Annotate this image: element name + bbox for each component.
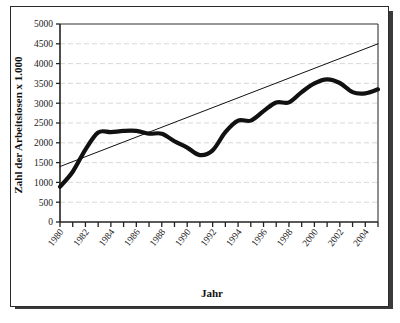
x-axis-tick-label: 2000	[300, 227, 320, 248]
y-axis-tick-labels: 0500100015002000250030003500400045005000	[34, 19, 53, 227]
x-axis-tick-label: 1998	[275, 227, 295, 248]
x-axis-tick-label: 1992	[199, 227, 219, 248]
gridlines	[60, 44, 378, 202]
y-axis-tick-label: 2500	[34, 118, 53, 128]
x-axis-tick-label: 1982	[71, 227, 91, 248]
x-axis-tick-label: 1994	[224, 227, 244, 248]
y-axis-tick-label: 500	[39, 198, 54, 208]
x-axis-tick-label: 2004	[351, 227, 371, 248]
data-line-unemployment	[60, 79, 378, 186]
data-series-layer	[60, 44, 378, 187]
x-axis-tick-label: 1984	[97, 227, 117, 248]
y-axis-tick-label: 4000	[34, 59, 53, 69]
x-axis-tick-label: 2002	[326, 227, 346, 248]
y-axis-tick-label: 4500	[34, 39, 53, 49]
chart-figure: 0500100015002000250030003500400045005000…	[0, 0, 400, 323]
x-axis-tick-label: 1986	[122, 227, 142, 248]
y-axis-title: Zahl der Arbeitslosen x 1.000	[12, 56, 24, 194]
y-axis-tick-label: 1500	[34, 158, 53, 168]
x-axis-tick-labels: 1980198219841986198819901992199419961998…	[46, 227, 371, 248]
chart-plot-area: 0500100015002000250030003500400045005000…	[0, 0, 400, 323]
y-axis-tick-label: 3500	[34, 79, 53, 89]
y-axis-tick-label: 1000	[34, 178, 53, 188]
x-axis-tick-label: 1980	[46, 227, 66, 248]
plot-border	[60, 24, 378, 222]
y-axis-tick-label: 3000	[34, 99, 53, 109]
y-axis-tick-label: 5000	[34, 19, 53, 29]
trend-line	[60, 44, 378, 167]
y-axis-tick-label: 0	[48, 217, 53, 227]
y-axis-tick-label: 2000	[34, 138, 53, 148]
x-axis-tick-label: 1990	[173, 227, 193, 248]
x-axis-tick-label: 1988	[148, 227, 168, 248]
x-axis-tick-label: 1996	[250, 227, 270, 248]
x-axis-title: Jahr	[201, 287, 223, 299]
